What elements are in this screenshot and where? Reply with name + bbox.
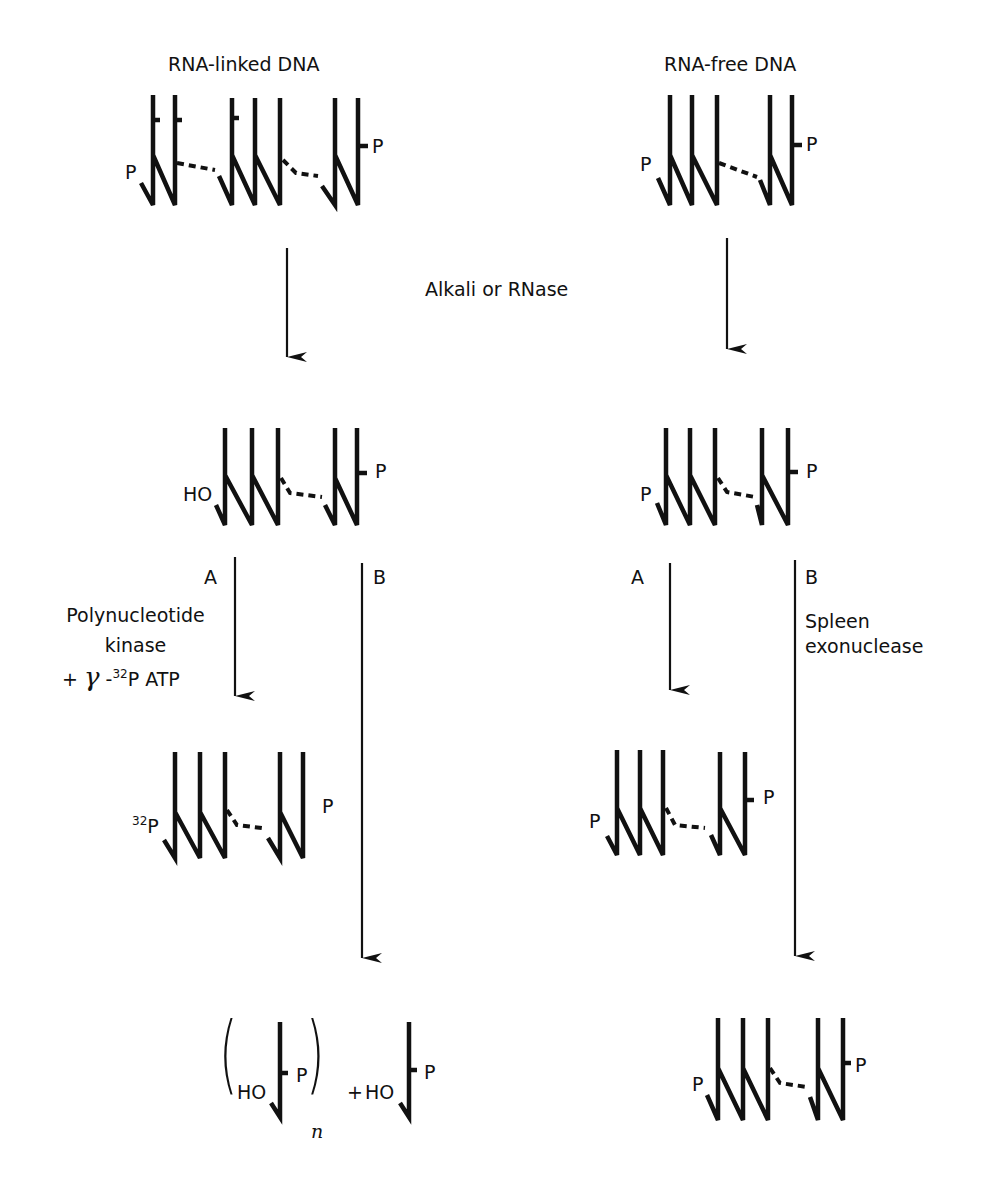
rna-linked-dna-strand: [141, 95, 368, 205]
treated-dna-left-strand: [216, 428, 367, 525]
diagram-canvas: [0, 0, 999, 1188]
labeled-dna-strand: [164, 752, 303, 858]
route-a-right-product-strand: [607, 750, 754, 855]
rna-free-dna-strand: [658, 95, 802, 205]
exonuclease-product-strand: [707, 1018, 851, 1120]
mononucleotide-product: [271, 1022, 417, 1117]
treated-dna-right-strand: [657, 428, 798, 525]
